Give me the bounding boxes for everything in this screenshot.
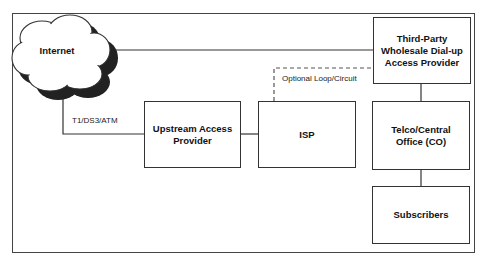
subscribers-label: Subscribers bbox=[394, 209, 449, 221]
subscribers-node: Subscribers bbox=[372, 186, 470, 244]
isp-node: ISP bbox=[258, 101, 356, 168]
third-party-provider-node: Third-Party Wholesale Dial-up Access Pro… bbox=[373, 17, 471, 84]
optional-loop-label: Optional Loop/Circuit bbox=[282, 74, 357, 83]
isp-label: ISP bbox=[299, 129, 314, 141]
telco-label: Telco/Central Office (CO) bbox=[377, 124, 465, 148]
upstream-provider-node: Upstream Access Provider bbox=[144, 101, 241, 168]
telco-node: Telco/Central Office (CO) bbox=[372, 101, 470, 170]
upstream-provider-label: Upstream Access Provider bbox=[151, 123, 234, 147]
internet-label: Internet bbox=[32, 45, 82, 56]
link-type-label: T1/DS3/ATM bbox=[72, 116, 118, 125]
third-party-provider-label: Third-Party Wholesale Dial-up Access Pro… bbox=[378, 33, 466, 69]
